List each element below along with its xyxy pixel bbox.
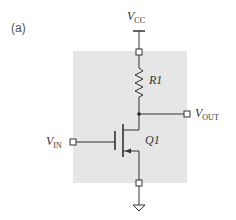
vcc-label: VCC [127,9,145,25]
circuit-boundary-box [73,51,187,183]
ground-icon [133,205,145,211]
output-junction-dot [137,112,141,116]
vin-terminal [70,139,76,145]
vout-label: VOUT [195,106,219,122]
vcc-terminal [136,49,142,55]
vin-label: VIN [46,134,62,150]
ground-terminal [136,180,142,186]
vout-terminal [184,111,190,117]
q1-label: Q1 [145,133,160,148]
r1-label: R1 [149,73,162,88]
